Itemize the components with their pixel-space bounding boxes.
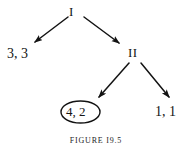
payoff-label-left: 3, 3 [7, 47, 28, 61]
node-label-player-two: II [128, 46, 137, 59]
node-label-player-one: I [69, 5, 74, 18]
payoff-label-right: 1, 1 [155, 105, 176, 119]
edge-i-to-player-2 [84, 17, 119, 43]
edge-i-to-payoff-left [35, 17, 68, 42]
payoff-label-circled: 4, 2 [66, 105, 86, 118]
game-tree-diagram [0, 0, 192, 157]
edge-ii-to-payoff-circled [99, 63, 129, 97]
game-tree-figure: I II 3, 3 4, 2 1, 1 FIGURE I9.5 [0, 0, 192, 157]
edge-ii-to-payoff-right [141, 63, 169, 97]
figure-caption: FIGURE I9.5 [0, 136, 192, 145]
